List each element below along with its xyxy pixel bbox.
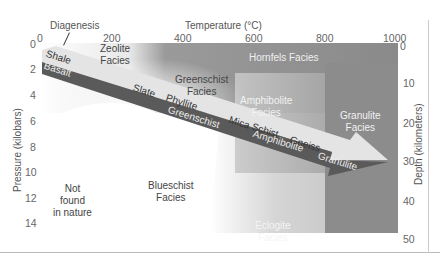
zeolite-facies-label: Zeolite Facies (100, 43, 130, 67)
pressure-tick-14: 14 (25, 217, 37, 229)
temperature-axis-label: Temperature (°C) (185, 20, 262, 31)
temp-tick-400: 400 (174, 32, 192, 44)
temp-tick-0: 0 (37, 32, 43, 44)
eclogite-facies-label: Eclogite Facies (255, 220, 291, 244)
pressure-tick-2: 2 (30, 63, 36, 75)
amphibolite-facies-label: Amphibolite Facies (240, 95, 292, 119)
pressure-tick-12: 12 (25, 192, 37, 204)
depth-tick-40: 40 (403, 195, 415, 207)
depth-tick-20: 20 (403, 117, 415, 129)
depth-tick-50: 50 (403, 233, 415, 245)
hornfels-facies-label: Hornfels Facies (249, 52, 318, 64)
depth-axis-label: Depth (kilometers) (413, 103, 424, 185)
temp-tick-800: 800 (316, 32, 334, 44)
pressure-tick-8: 8 (30, 141, 36, 153)
pressure-tick-0: 0 (30, 38, 36, 50)
depth-tick-0: 0 (400, 40, 406, 52)
pressure-tick-6: 6 (30, 115, 36, 127)
blueschist-facies-label: Blueschist Facies (148, 180, 194, 204)
not-found-in-nature-label: Not found in nature (53, 183, 92, 219)
depth-tick-30: 30 (403, 155, 415, 167)
granulite-facies-label: Granulite Facies (340, 110, 381, 134)
pressure-tick-4: 4 (30, 89, 36, 101)
greenschist-facies-label: Greenschist Facies (175, 74, 228, 98)
temp-tick-600: 600 (245, 32, 263, 44)
depth-tick-10: 10 (403, 77, 415, 89)
pressure-axis-label: Pressure (kilobars) (12, 108, 23, 192)
pressure-tick-10: 10 (25, 166, 37, 178)
diagenesis-label: Diagenesis (50, 20, 99, 31)
